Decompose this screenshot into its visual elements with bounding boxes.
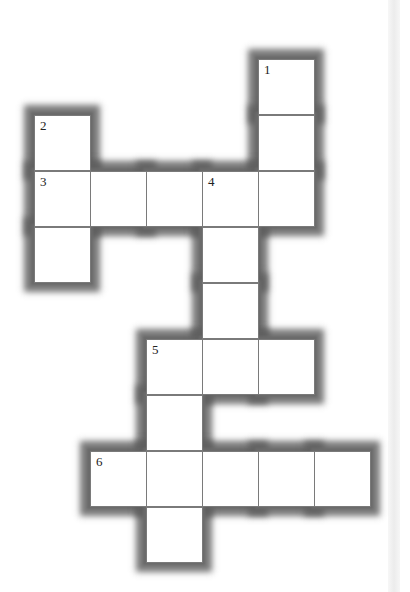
crossword-cell-r5-c3[interactable] [202, 339, 259, 395]
clue-number: 1 [264, 63, 271, 76]
crossword-cell-r3-c0[interactable] [34, 227, 91, 283]
crossword-cell-r3-c3[interactable] [202, 227, 259, 283]
crossword-cell-r2-c1[interactable] [90, 171, 147, 227]
clue-number: 6 [96, 455, 103, 468]
clue-number: 3 [40, 175, 47, 188]
crossword-cell-r1-c4[interactable] [258, 115, 315, 171]
crossword-cell-r2-c2[interactable] [146, 171, 203, 227]
crossword-cell-r5-c2[interactable]: 5 [146, 339, 203, 395]
crossword-cell-r8-c2[interactable] [146, 507, 203, 563]
crossword-cell-r0-c4[interactable]: 1 [258, 59, 315, 115]
clue-number: 4 [208, 175, 215, 188]
crossword-cell-r7-c2[interactable] [146, 451, 203, 507]
clue-number: 2 [40, 119, 47, 132]
crossword-cell-r2-c0[interactable]: 3 [34, 171, 91, 227]
crossword-cell-r2-c3[interactable]: 4 [202, 171, 259, 227]
crossword-cell-r5-c4[interactable] [258, 339, 315, 395]
crossword-cell-r7-c3[interactable] [202, 451, 259, 507]
crossword-cell-r7-c5[interactable] [314, 451, 371, 507]
crossword-cell-r2-c4[interactable] [258, 171, 315, 227]
crossword-grid: 123456 [0, 0, 410, 592]
clue-number: 5 [152, 343, 159, 356]
crossword-cell-r1-c0[interactable]: 2 [34, 115, 91, 171]
crossword-cell-r7-c4[interactable] [258, 451, 315, 507]
crossword-cell-r4-c3[interactable] [202, 283, 259, 339]
crossword-cell-r6-c2[interactable] [146, 395, 203, 451]
crossword-cell-r7-c1[interactable]: 6 [90, 451, 147, 507]
